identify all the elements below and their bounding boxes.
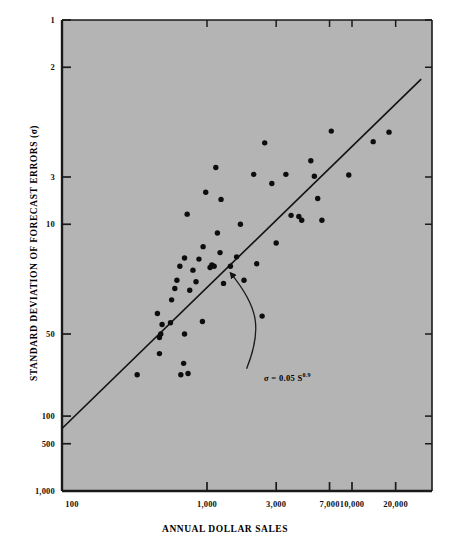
scatter-point — [241, 278, 246, 283]
scatter-point — [182, 255, 187, 260]
y-tick-label: 3 — [0, 172, 55, 182]
scatter-point — [346, 172, 351, 177]
y-tick-label: 10 — [0, 219, 55, 229]
scatter-point — [168, 320, 173, 325]
fit-coefficient: 0.05 — [279, 373, 295, 383]
scatter-point — [259, 313, 264, 318]
y-axis-title: STANDARD DEVIATION OF FORECAST ERRORS (σ… — [29, 123, 39, 383]
scatter-point — [155, 311, 160, 316]
scatter-chart-figure: 1,00050010050103211001,0003,0007,00010,0… — [0, 0, 450, 551]
scatter-point — [157, 351, 162, 356]
x-tick-label: 1,000 — [197, 499, 217, 509]
scatter-point — [273, 240, 278, 245]
scatter-point — [386, 129, 391, 134]
scatter-point — [269, 181, 274, 186]
scatter-point — [185, 371, 190, 376]
y-tick-label: 1,000 — [0, 486, 55, 496]
scatter-point — [169, 297, 174, 302]
fit-equation-annotation: σ = 0.05 S0.9 — [264, 372, 311, 383]
y-tick-label: 500 — [0, 439, 55, 449]
scatter-point — [288, 213, 293, 218]
scatter-point — [187, 288, 192, 293]
scatter-point — [308, 158, 313, 163]
scatter-point — [370, 139, 375, 144]
y-tick-label: 100 — [0, 411, 55, 421]
y-tick-label: 2 — [0, 62, 55, 72]
scatter-point — [211, 264, 216, 269]
scatter-point — [200, 319, 205, 324]
scatter-point — [283, 172, 288, 177]
scatter-point — [174, 278, 179, 283]
scatter-point — [182, 331, 187, 336]
scatter-point — [181, 361, 186, 366]
x-tick-label: 100 — [65, 499, 78, 509]
x-tick-label: 10,000 — [340, 499, 365, 509]
x-tick-label: 3,000 — [266, 499, 286, 509]
scatter-point — [234, 254, 239, 259]
fit-exponent: 0.9 — [302, 372, 310, 378]
x-tick-label: 7,000 — [319, 499, 339, 509]
scatter-point — [172, 286, 177, 291]
scatter-point — [315, 196, 320, 201]
scatter-point — [190, 267, 195, 272]
scatter-point — [262, 140, 267, 145]
x-axis-title: ANNUAL DOLLAR SALES — [0, 524, 450, 534]
scatter-point — [217, 250, 222, 255]
scatter-point — [319, 218, 324, 223]
scatter-point — [251, 172, 256, 177]
plot-svg — [0, 0, 450, 551]
scatter-point — [178, 372, 183, 377]
scatter-point — [158, 331, 163, 336]
scatter-point — [196, 256, 201, 261]
scatter-point — [184, 211, 189, 216]
scatter-point — [134, 372, 139, 377]
scatter-point — [218, 197, 223, 202]
sigma-symbol: σ — [264, 373, 269, 383]
scatter-point — [215, 230, 220, 235]
scatter-point — [193, 279, 198, 284]
scatter-point — [159, 322, 164, 327]
scatter-point — [228, 264, 233, 269]
plot-area-background — [62, 20, 432, 491]
scatter-point — [238, 222, 243, 227]
scatter-point — [213, 165, 218, 170]
scatter-point — [254, 261, 259, 266]
scatter-point — [200, 244, 205, 249]
scatter-point — [312, 174, 317, 179]
x-tick-label: 20,000 — [383, 499, 408, 509]
scatter-point — [177, 264, 182, 269]
y-tick-label: 50 — [0, 329, 55, 339]
scatter-point — [203, 190, 208, 195]
y-tick-label: 1 — [0, 15, 55, 25]
scatter-point — [329, 128, 334, 133]
equals-symbol: = — [271, 373, 276, 383]
scatter-point — [299, 218, 304, 223]
scatter-point — [221, 281, 226, 286]
